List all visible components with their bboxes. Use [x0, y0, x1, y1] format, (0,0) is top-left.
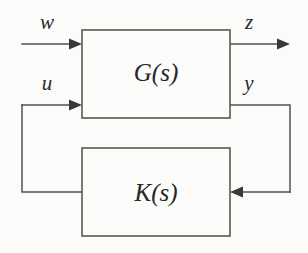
- wire-w-input: [22, 39, 82, 50]
- wire-u-feedback-path: [22, 100, 82, 193]
- signal-label-z: z: [244, 10, 253, 34]
- controller-block[interactable]: K(s): [82, 148, 230, 236]
- block-diagram-canvas: G(s) K(s) w z u y: [0, 0, 308, 253]
- arrowhead-y-into-controller: [230, 187, 243, 198]
- arrowhead-u-into-plant: [69, 100, 82, 111]
- control-system-diagram: G(s) K(s) w z u y: [0, 0, 308, 253]
- plant-block-label: G(s): [134, 59, 178, 87]
- arrowhead-z-out-of-plant: [277, 39, 290, 50]
- wire-y-feedback-path: [230, 105, 290, 198]
- arrowhead-w-into-plant: [69, 39, 82, 50]
- wire-z-output: [230, 39, 290, 50]
- controller-block-label: K(s): [133, 179, 177, 207]
- signal-label-y: y: [242, 71, 254, 95]
- signal-label-u: u: [42, 71, 53, 95]
- signal-label-w: w: [40, 10, 54, 34]
- plant-block[interactable]: G(s): [82, 30, 230, 118]
